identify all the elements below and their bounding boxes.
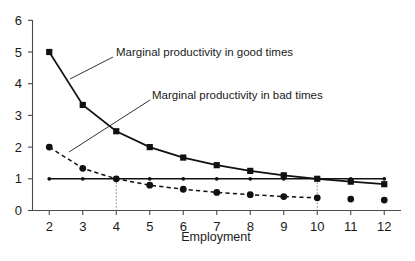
bad-times-marker-x5 <box>146 182 153 189</box>
good-times-marker-x8 <box>247 168 253 174</box>
bad-times-marker-x6 <box>180 186 187 193</box>
y-tick-label-3: 3 <box>15 108 22 123</box>
x-tick-label-11: 11 <box>344 219 358 234</box>
bad-times-marker-x4 <box>113 175 120 182</box>
reference-marker-x7 <box>215 177 219 181</box>
reference-marker-x8 <box>248 177 252 181</box>
y-tick-label-2: 2 <box>15 140 22 155</box>
good-times-marker-x11 <box>348 179 354 185</box>
reference-marker-x3 <box>81 177 85 181</box>
y-tick-label-0: 0 <box>15 203 22 218</box>
bad-times-marker-x7 <box>213 189 220 196</box>
x-axis-title: Employment <box>181 230 251 244</box>
good-times-markers <box>46 49 387 187</box>
bad-times-marker-x9 <box>280 193 287 200</box>
good-times-marker-x3 <box>80 102 86 108</box>
x-tick-label-5: 5 <box>146 219 153 234</box>
annotation-bad-times: Marginal productivity in bad times <box>152 89 323 101</box>
good-times-marker-x5 <box>147 144 153 150</box>
bad-times-marker-x12 <box>381 197 388 204</box>
x-tick-label-12: 12 <box>377 219 391 234</box>
x-tick-label-10: 10 <box>310 219 324 234</box>
x-tick-label-9: 9 <box>280 219 287 234</box>
y-tick-labels: 0 1 2 3 4 5 6 <box>15 13 22 218</box>
good-times-marker-x6 <box>180 154 186 160</box>
reference-marker-x12 <box>382 177 386 181</box>
chart-container: 0 1 2 3 4 5 6 23456789101112 Marginal pr… <box>0 0 415 261</box>
y-tick-group <box>28 20 33 210</box>
good-times-marker-x2 <box>46 49 52 55</box>
reference-marker-x6 <box>181 177 185 181</box>
bad-times-marker-x11 <box>347 196 354 203</box>
y-tick-label-6: 6 <box>15 13 22 28</box>
x-tick-label-2: 2 <box>46 219 53 234</box>
x-tick-group <box>49 211 384 216</box>
good-times-marker-x10 <box>314 176 320 182</box>
good-times-marker-x4 <box>113 128 119 134</box>
y-tick-label-1: 1 <box>15 171 22 186</box>
x-tick-label-3: 3 <box>79 219 86 234</box>
bad-times-marker-x2 <box>46 144 53 151</box>
good-times-marker-x12 <box>381 181 387 187</box>
annotation-good-times: Marginal productivity in good times <box>116 46 293 58</box>
good-times-marker-x7 <box>214 162 220 168</box>
bad-times-marker-x3 <box>79 165 86 172</box>
bad-times-marker-x10 <box>314 194 321 201</box>
y-tick-label-4: 4 <box>15 76 22 91</box>
leader-line-good-times <box>70 57 113 79</box>
x-tick-label-4: 4 <box>113 219 120 234</box>
bad-times-marker-x8 <box>247 191 254 198</box>
y-tick-label-5: 5 <box>15 45 22 60</box>
good-times-marker-x9 <box>281 172 287 178</box>
reference-marker-x5 <box>148 177 152 181</box>
marginal-productivity-chart: 0 1 2 3 4 5 6 23456789101112 Marginal pr… <box>0 0 415 261</box>
reference-marker-x2 <box>47 177 51 181</box>
